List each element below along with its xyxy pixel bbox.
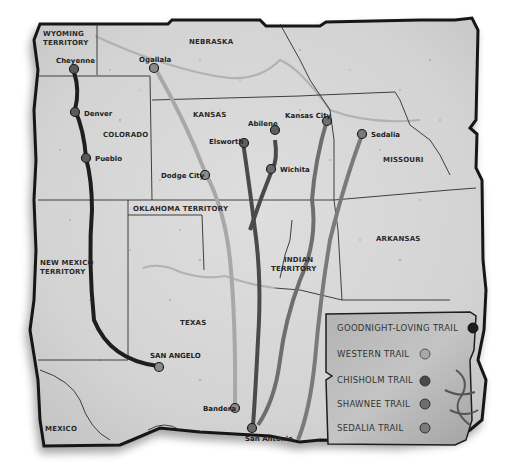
label-nebraska: NEBRASKA (189, 38, 234, 46)
svg-text:CHISHOLM TRAIL: CHISHOLM TRAIL (337, 375, 413, 385)
goodnight-loving-swatch-icon (468, 323, 478, 333)
cheyenne-marker (70, 65, 79, 74)
label-wyoming-2: TERRITORY (43, 39, 89, 47)
label-mexico: MEXICO (45, 425, 77, 433)
label-kansas-city: Kansas City (285, 112, 332, 120)
label-new-mexico-2: TERRITORY (40, 268, 86, 276)
label-oklahoma: OKLAHOMA TERRITORY (133, 205, 229, 213)
label-wichita: Wichita (280, 166, 310, 174)
label-ogallala: Ogallala (139, 56, 172, 64)
san-angelo-marker (155, 363, 164, 372)
denver-marker (71, 108, 80, 117)
chisholm-swatch-icon (420, 376, 430, 386)
label-ellsworth: Elsworth (209, 138, 243, 146)
svg-text:SHAWNEE TRAIL: SHAWNEE TRAIL (337, 399, 410, 409)
label-indian: INDIAN (284, 256, 313, 264)
label-arkansas: ARKANSAS (376, 235, 421, 243)
label-denver: Denver (84, 110, 113, 118)
label-san-angelo: SAN ANGELO (150, 352, 201, 360)
label-wyoming: WYOMING (43, 30, 84, 38)
label-san-antonio: San Antonio (245, 435, 293, 443)
western-swatch-icon (420, 349, 430, 359)
label-abilene: Abilene (248, 120, 278, 128)
ogallala-marker (150, 64, 159, 73)
legend: GOODNIGHT-LOVING TRAIL WESTERN TRAIL CHI… (326, 312, 478, 445)
label-new-mexico: NEW MEXICO (40, 259, 94, 267)
label-colorado: COLORADO (103, 131, 148, 139)
wichita-marker (267, 165, 276, 174)
san-antonio-marker (248, 424, 257, 433)
label-dodge-city: Dodge City (161, 172, 205, 180)
svg-text:GOODNIGHT-LOVING TRAIL: GOODNIGHT-LOVING TRAIL (337, 323, 458, 333)
svg-text:SEDALIA TRAIL: SEDALIA TRAIL (337, 423, 403, 433)
pueblo-marker (82, 154, 91, 163)
label-sedalia: Sedalia (371, 131, 400, 139)
label-bandera: Bandera (203, 405, 236, 413)
legend-item-goodnight-loving: GOODNIGHT-LOVING TRAIL (337, 323, 478, 333)
shawnee-swatch-icon (420, 399, 430, 409)
label-pueblo: Pueblo (95, 155, 122, 163)
label-cheyenne: Cheyenne (56, 57, 95, 65)
svg-text:WESTERN TRAIL: WESTERN TRAIL (337, 349, 409, 359)
sedalia-swatch-icon (420, 423, 430, 433)
label-missouri: MISSOURI (383, 156, 424, 164)
label-kansas: KANSAS (193, 111, 226, 119)
cattle-trails-map: WYOMING TERRITORY NEBRASKA COLORADO KANS… (0, 0, 505, 476)
label-texas: TEXAS (180, 319, 206, 327)
label-indian-2: TERRITORY (271, 265, 317, 273)
sedalia-marker (358, 130, 367, 139)
